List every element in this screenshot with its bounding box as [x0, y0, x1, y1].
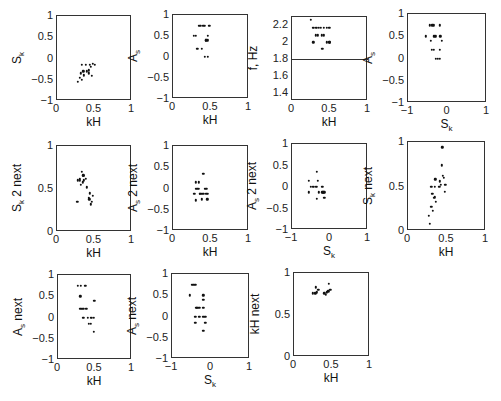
data-point: [204, 322, 206, 324]
y-axis-label: Sk: [10, 51, 26, 63]
data-point: [201, 47, 203, 49]
data-point: [202, 294, 204, 296]
y-axis-label: Sk next: [361, 166, 377, 204]
plot-axes-p11: [56, 15, 131, 100]
x-tick-label: 0: [207, 361, 213, 372]
x-tick-label: 1: [245, 233, 251, 244]
x-tick-label: 1: [482, 233, 488, 244]
data-point: [77, 81, 79, 83]
data-point: [432, 209, 434, 211]
y-axis-label: As: [361, 51, 377, 63]
data-point: [207, 35, 209, 37]
data-point: [432, 48, 434, 50]
data-point: [93, 299, 95, 301]
y-tick-label: −0.5: [146, 331, 168, 342]
y-tick-label: 0.5: [389, 30, 404, 41]
data-point: [92, 195, 94, 197]
x-tick-label: 1: [128, 362, 134, 373]
x-tick-label: 0: [288, 103, 294, 114]
data-point: [323, 34, 325, 36]
data-point: [439, 180, 441, 182]
data-point: [92, 330, 94, 332]
data-point: [202, 172, 204, 174]
y-axis-label: Sk 2 next: [10, 164, 26, 212]
x-axis-label: kH: [87, 374, 102, 388]
plot-axes-p24: [407, 141, 485, 230]
data-point: [440, 39, 442, 41]
y-tick-label: −0.5: [147, 203, 169, 214]
data-point: [315, 198, 317, 200]
data-point: [195, 181, 197, 183]
data-point: [90, 74, 92, 76]
data-point: [321, 186, 323, 188]
data-point: [430, 185, 432, 187]
data-point: [310, 18, 312, 20]
x-tick-label: 0.5: [321, 103, 336, 114]
data-point: [208, 24, 210, 26]
x-tick-label: 0.5: [202, 101, 217, 112]
data-point: [194, 315, 196, 317]
plot-axes-p31: [57, 274, 131, 359]
data-point: [432, 24, 434, 26]
data-point: [440, 164, 442, 166]
x-tick-label: 1: [245, 101, 251, 112]
y-tick-label: −0.5: [266, 202, 288, 213]
data-point: [90, 66, 92, 68]
data-point: [193, 192, 195, 194]
y-tick-label: −1: [155, 353, 168, 364]
x-tick-label: 0.5: [438, 233, 453, 244]
data-point: [85, 308, 87, 310]
x-tick-label: 0.5: [86, 103, 101, 114]
y-tick-label: −1: [156, 225, 169, 236]
data-point: [315, 171, 317, 173]
x-tick-label: 0.5: [86, 234, 101, 245]
y-tick-label: 1: [47, 10, 53, 21]
x-tick-label: 0: [404, 233, 410, 244]
data-point: [202, 192, 204, 194]
plot-axes-p21: [56, 145, 131, 231]
y-axis-label: kH next: [248, 294, 262, 335]
x-axis-label: kH: [86, 246, 101, 260]
data-point: [89, 192, 91, 194]
y-tick-label: 0: [48, 311, 54, 322]
y-tick-label: −1: [391, 97, 404, 108]
data-point: [205, 187, 207, 189]
x-tick-label: 0.5: [86, 362, 101, 373]
y-tick-label: 1: [162, 268, 168, 279]
data-point: [323, 197, 325, 199]
y-tick-label: −1: [275, 224, 288, 235]
data-point: [198, 307, 200, 309]
data-point: [80, 183, 82, 185]
data-point: [79, 295, 81, 297]
data-point: [204, 315, 206, 317]
x-axis-label: kH: [203, 245, 218, 259]
data-point: [433, 185, 435, 187]
y-axis-label: f, Hz: [246, 46, 260, 71]
data-point: [312, 41, 314, 43]
y-tick-label: −0.5: [31, 73, 53, 84]
data-point: [308, 191, 310, 193]
y-tick-label: 1: [47, 140, 53, 151]
x-tick-label: 0.5: [202, 233, 217, 244]
data-point: [315, 186, 317, 188]
plot-axes-p32: [171, 273, 249, 358]
data-point: [443, 176, 445, 178]
data-point: [201, 198, 203, 200]
data-point: [439, 35, 441, 37]
y-tick-label: 0.5: [39, 290, 54, 301]
data-point: [89, 323, 91, 325]
y-axis-label: As: [126, 50, 142, 62]
y-axis-label: As next: [11, 297, 27, 335]
plot-axes-p22: [172, 145, 248, 230]
x-axis-label: kH: [324, 371, 339, 385]
y-tick-label: 1: [398, 136, 404, 147]
data-point: [308, 179, 310, 181]
x-tick-label: 1: [483, 105, 489, 116]
plot-axes-p13: [291, 16, 367, 100]
y-tick-label: 0.5: [38, 183, 53, 194]
data-point: [202, 307, 204, 309]
data-point: [328, 283, 330, 285]
data-point: [317, 179, 319, 181]
data-point: [84, 284, 86, 286]
data-point: [328, 27, 330, 29]
